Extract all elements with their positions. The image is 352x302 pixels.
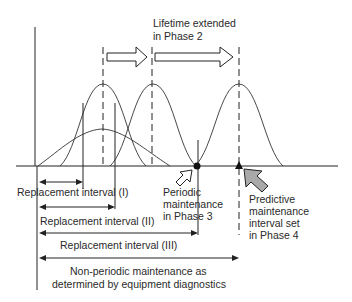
wide-distribution-curve xyxy=(38,129,170,166)
predictive-label-line2: maintenance xyxy=(249,205,309,217)
lifetime-label-line1: Lifetime extended xyxy=(153,17,236,29)
predictive-arrow xyxy=(244,169,268,192)
interval-arrow-2 xyxy=(39,204,115,210)
predictive-label-line1: Predictive xyxy=(249,193,295,205)
narrow-distribution-curve-2 xyxy=(110,84,196,166)
interval-arrow-1 xyxy=(39,179,83,185)
replacement-interval-3-label: Replacement interval (III) xyxy=(60,239,177,251)
predictive-label-line4: in Phase 4 xyxy=(249,229,299,241)
predictive-point xyxy=(235,161,243,169)
lifetime-arrow-1 xyxy=(107,47,147,67)
nonperiodic-label-line1: Non-periodic maintenance as xyxy=(70,265,207,277)
interval-arrow-4 xyxy=(39,255,239,261)
periodic-label-line3: in Phase 3 xyxy=(163,210,213,222)
replacement-interval-1-label: Replacement interval (I) xyxy=(17,186,128,198)
lifetime-label-line2: in Phase 2 xyxy=(153,30,203,42)
maintenance-diagram: Lifetime extended in Phase 2 Replacement… xyxy=(0,0,352,302)
interval-arrow-3 xyxy=(39,230,198,236)
periodic-arrow xyxy=(176,170,192,186)
predictive-label-line3: interval set xyxy=(249,217,300,229)
periodic-label-line2: maintenance xyxy=(163,198,223,210)
replacement-interval-2-label: Replacement interval (II) xyxy=(40,215,154,227)
lifetime-arrow-2 xyxy=(155,47,233,67)
periodic-label-line1: Periodic xyxy=(163,186,201,198)
nonperiodic-label-line2: determined by equipment diagnostics xyxy=(52,278,226,290)
periodic-point xyxy=(194,163,201,170)
